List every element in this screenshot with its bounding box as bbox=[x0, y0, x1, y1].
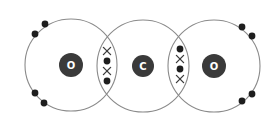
oxygen-left-nucleus: O bbox=[59, 53, 83, 77]
bond-oxygen-left-carbon bbox=[103, 47, 110, 84]
electron-dot-icon bbox=[239, 98, 246, 105]
oxygen-left-symbol: O bbox=[67, 60, 76, 71]
electron-cross-icon bbox=[176, 55, 183, 62]
electron-cross-icon bbox=[103, 67, 110, 74]
electron-dot-icon bbox=[41, 100, 48, 107]
electron-dot-icon bbox=[249, 33, 256, 40]
bond-carbon-oxygen-right bbox=[176, 46, 183, 83]
electron-dot-icon bbox=[177, 66, 184, 73]
oxygen-right-nucleus: O bbox=[202, 54, 226, 78]
diagram-canvas: OCO bbox=[0, 0, 272, 113]
carbon-symbol: C bbox=[139, 61, 146, 72]
electron-dot-icon bbox=[239, 24, 246, 31]
electron-cross-icon bbox=[103, 47, 110, 54]
electron-dot-icon bbox=[249, 91, 256, 98]
electron-dot-icon bbox=[104, 78, 111, 85]
co2-dot-cross-diagram: OCO bbox=[0, 0, 272, 113]
electron-dot-icon bbox=[32, 90, 39, 97]
electron-dot-icon bbox=[42, 21, 49, 28]
electron-dot-icon bbox=[32, 31, 39, 38]
electron-dot-icon bbox=[177, 46, 184, 53]
carbon-nucleus: C bbox=[132, 55, 154, 77]
oxygen-right-symbol: O bbox=[210, 61, 219, 72]
electron-dot-icon bbox=[104, 58, 111, 65]
nuclei: OCO bbox=[59, 53, 226, 78]
electron-cross-icon bbox=[176, 75, 183, 82]
